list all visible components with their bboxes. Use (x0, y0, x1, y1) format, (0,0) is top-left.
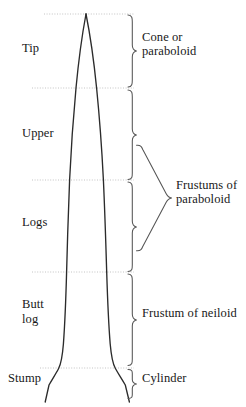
solid-label-frustums-line2: paraboloid (176, 192, 230, 207)
section-divider-lines (32, 14, 134, 368)
logs-bracket (128, 182, 136, 272)
solid-label-cone-line2: paraboloid (142, 44, 196, 59)
cone-bracket (128, 15, 136, 87)
stem-label-butt-line2: log (22, 312, 38, 327)
solid-label-cone-line1: Cone or (142, 30, 183, 45)
section-brackets (128, 15, 136, 399)
stem-label-logs: Logs (22, 215, 47, 230)
tree-stem-outline (45, 14, 129, 402)
stump-bracket (128, 370, 136, 399)
stem-label-tip: Tip (22, 41, 39, 56)
stem-left-edge (45, 14, 86, 402)
frustums-group-bracket-path (137, 145, 172, 251)
stem-label-butt-line1: Butt (22, 297, 44, 312)
stem-label-stump: Stump (8, 371, 41, 386)
tree-stem-form-diagram: Tip Upper Logs Butt log Stump Cone or pa… (0, 0, 246, 407)
solid-label-frustums-line1: Frustums of (176, 178, 237, 193)
frustums-group-bracket (137, 145, 172, 251)
upper-bracket (128, 90, 136, 180)
stem-label-upper: Upper (22, 126, 54, 141)
solid-label-cylinder: Cylinder (142, 371, 187, 386)
solid-label-neiloid: Frustum of neiloid (142, 306, 237, 321)
stem-right-edge (86, 14, 129, 402)
buttlog-bracket (128, 274, 136, 366)
